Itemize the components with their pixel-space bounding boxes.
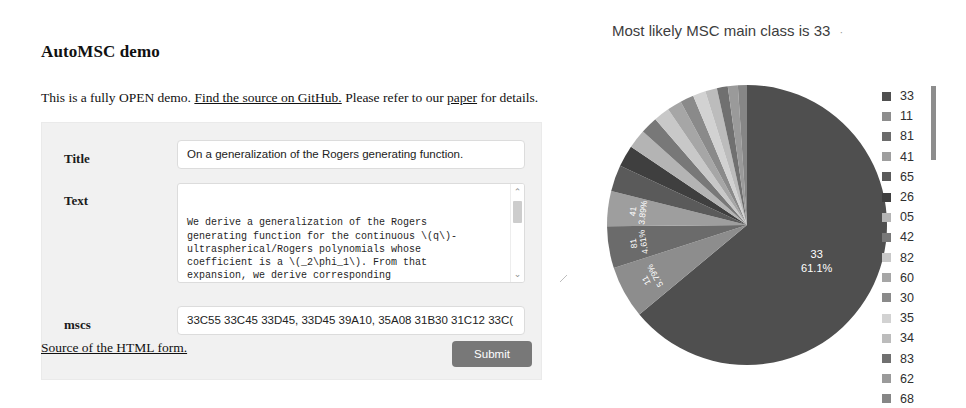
legend-scrollbar-thumb[interactable]: [931, 86, 936, 160]
legend-swatch: [882, 293, 891, 302]
legend-swatch: [882, 314, 891, 323]
scroll-up-icon[interactable]: ⌃: [511, 186, 524, 198]
chart-legend[interactable]: 33118141652605428260303534836268: [882, 86, 938, 408]
text-textarea-content: We derive a generalization of the Rogers…: [187, 216, 505, 283]
intro-text-part-2: Please refer to our: [342, 90, 447, 105]
legend-label: 60: [900, 271, 914, 285]
textarea-resize-grip[interactable]: [560, 275, 567, 282]
legend-label: 42: [900, 230, 914, 244]
chart-heading-text: Most likely MSC main class is 33: [612, 22, 830, 39]
legend-item[interactable]: 26: [882, 187, 938, 207]
demo-form-column: AutoMSC demo This is a fully OPEN demo. …: [0, 0, 590, 408]
title-field-label: Title: [64, 151, 90, 167]
legend-item[interactable]: 83: [882, 348, 938, 368]
prediction-chart-column: Most likely MSC main class is 33· 3361.1…: [590, 0, 966, 408]
legend-swatch: [882, 132, 891, 141]
legend-item[interactable]: 41: [882, 147, 938, 167]
legend-swatch: [882, 112, 891, 121]
msc-class-pie-chart[interactable]: 3361.1%115.79%814.61%413.89%: [606, 84, 888, 366]
legend-swatch: [882, 273, 891, 282]
text-field-label: Text: [64, 193, 88, 209]
pie-slices: [607, 85, 887, 365]
legend-item[interactable]: 11: [882, 106, 938, 126]
mscs-field-label: mscs: [64, 317, 91, 333]
legend-item[interactable]: 05: [882, 207, 938, 227]
legend-item[interactable]: 30: [882, 288, 938, 308]
chart-heading: Most likely MSC main class is 33·: [612, 22, 843, 39]
github-source-link[interactable]: Find the source on GitHub.: [194, 90, 341, 105]
pie-chart-svg: 3361.1%115.79%814.61%413.89%: [606, 84, 888, 366]
legend-label: 65: [900, 170, 914, 184]
scroll-down-icon[interactable]: ⌄: [511, 268, 524, 280]
legend-label: 83: [900, 352, 914, 366]
legend-swatch: [882, 172, 891, 181]
legend-label: 41: [900, 150, 914, 164]
textarea-scrollbar-thumb[interactable]: [513, 201, 522, 223]
mscs-input[interactable]: 33C55 33C45 33D45, 33D45 39A10, 35A08 31…: [177, 306, 525, 335]
html-form-source-link[interactable]: Source of the HTML form.: [41, 340, 187, 356]
legend-item[interactable]: 35: [882, 308, 938, 328]
legend-label: 35: [900, 311, 914, 325]
legend-item[interactable]: 33: [882, 86, 938, 106]
legend-item[interactable]: 81: [882, 126, 938, 146]
legend-swatch: [882, 233, 891, 242]
legend-swatch: [882, 354, 891, 363]
legend-item[interactable]: 65: [882, 167, 938, 187]
intro-text: This is a fully OPEN demo. Find the sour…: [41, 90, 538, 106]
textarea-scrollbar[interactable]: ⌃ ⌄: [510, 184, 524, 282]
legend-swatch: [882, 253, 891, 262]
legend-label: 81: [900, 129, 914, 143]
legend-item[interactable]: 62: [882, 369, 938, 389]
legend-label: 33: [900, 89, 914, 103]
page-title: AutoMSC demo: [41, 42, 160, 62]
title-input[interactable]: On a generalization of the Rogers genera…: [177, 140, 525, 169]
submit-button[interactable]: Submit: [452, 341, 532, 367]
legend-swatch: [882, 92, 891, 101]
legend-item[interactable]: 68: [882, 389, 938, 408]
legend-swatch: [882, 193, 891, 202]
legend-label: 34: [900, 331, 914, 345]
legend-item[interactable]: 82: [882, 248, 938, 268]
legend-swatch: [882, 152, 891, 161]
legend-swatch: [882, 374, 891, 383]
legend-swatch: [882, 334, 891, 343]
legend-scrollbar[interactable]: [931, 86, 936, 376]
legend-swatch: [882, 213, 891, 222]
legend-item[interactable]: 34: [882, 328, 938, 348]
legend-label: 05: [900, 210, 914, 224]
text-textarea[interactable]: We derive a generalization of the Rogers…: [177, 183, 525, 283]
legend-swatch: [882, 394, 891, 403]
legend-item[interactable]: 60: [882, 268, 938, 288]
legend-label: 26: [900, 190, 914, 204]
intro-text-part-3: for details.: [477, 90, 538, 105]
legend-label: 82: [900, 251, 914, 265]
chart-heading-dot: ·: [839, 26, 843, 38]
legend-item[interactable]: 42: [882, 227, 938, 247]
legend-label: 30: [900, 291, 914, 305]
legend-label: 62: [900, 372, 914, 386]
legend-label: 11: [900, 109, 913, 123]
paper-link[interactable]: paper: [447, 90, 477, 105]
intro-text-part-1: This is a fully OPEN demo.: [41, 90, 194, 105]
legend-label: 68: [900, 392, 914, 406]
